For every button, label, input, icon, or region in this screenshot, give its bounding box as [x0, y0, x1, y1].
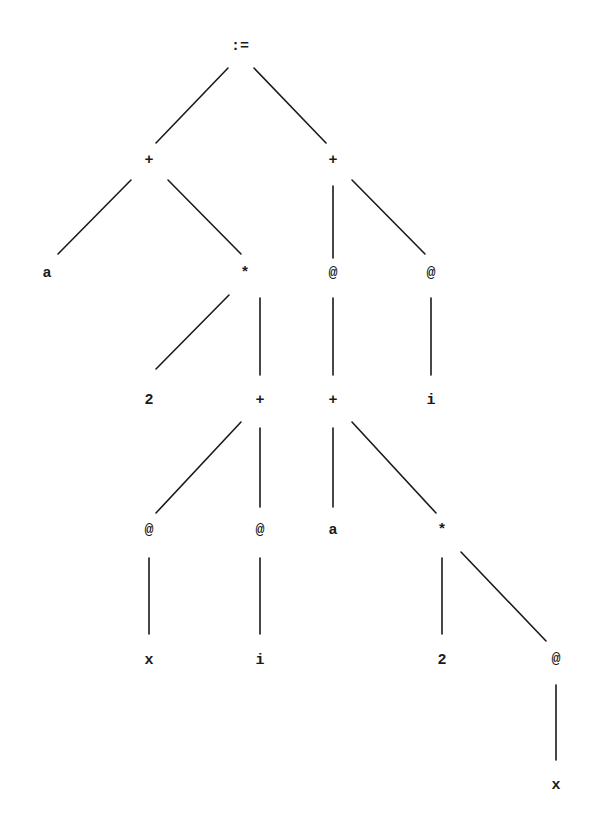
tree-edge-n8-n11	[156, 422, 241, 513]
tree-node-n3: a	[42, 266, 51, 281]
tree-node-n0: :=	[231, 39, 249, 54]
tree-edge-n2-n6	[352, 180, 425, 254]
tree-node-n9: +	[328, 393, 337, 408]
tree-edge-n0-n2	[254, 68, 326, 143]
tree-node-n19: x	[551, 778, 560, 793]
tree-node-n11: @	[144, 523, 153, 538]
tree-edge-n1-n4	[168, 180, 241, 254]
tree-node-n14: *	[437, 523, 446, 538]
tree-node-n5: @	[328, 266, 337, 281]
tree-edge-n0-n1	[156, 68, 228, 143]
tree-node-n1: +	[144, 153, 153, 168]
tree-edge-n9-n14	[352, 422, 436, 513]
tree-node-n4: *	[240, 266, 249, 281]
tree-node-n10: i	[426, 393, 435, 408]
tree-node-n15: x	[144, 653, 153, 668]
tree-node-n7: 2	[144, 393, 153, 408]
tree-edge-n1-n3	[58, 180, 131, 254]
tree-node-n12: @	[255, 523, 264, 538]
tree-edge-n4-n7	[156, 295, 229, 369]
tree-node-n18: @	[551, 652, 560, 667]
tree-node-n2: +	[328, 153, 337, 168]
tree-node-n13: a	[328, 523, 337, 538]
syntax-tree-edges	[0, 0, 592, 837]
tree-node-n6: @	[426, 266, 435, 281]
tree-edge-n14-n18	[461, 552, 546, 641]
tree-node-n17: 2	[437, 653, 446, 668]
tree-node-n8: +	[255, 393, 264, 408]
tree-node-n16: i	[255, 653, 264, 668]
